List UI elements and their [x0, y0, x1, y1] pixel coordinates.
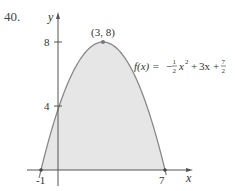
frac-seven-den: 2	[222, 67, 226, 75]
three-x: 3x	[199, 60, 211, 72]
x-intercept-7	[163, 168, 167, 172]
fx-prefix: f(x) =	[134, 60, 159, 73]
minus-sign: −	[166, 60, 172, 72]
chart: y x 8 4 -1 7 (3, 8) f(x) = − 1 2 x 2 + 3…	[0, 0, 235, 191]
frac-seven-num: 7	[222, 58, 226, 66]
y-tick-label-4: 4	[44, 100, 50, 112]
plus-sign-2: +	[213, 60, 219, 72]
plus-sign-1: +	[191, 60, 197, 72]
frac-half-num: 1	[173, 58, 177, 66]
x-tick-label-neg1: -1	[36, 174, 45, 186]
function-label: f(x) = − 1 2 x 2 + 3x + 7 2	[134, 58, 226, 75]
vertex-label: (3, 8)	[91, 26, 115, 39]
exponent-2: 2	[185, 58, 189, 66]
x-intercept-neg1	[39, 168, 43, 172]
x-var: x	[178, 60, 184, 72]
frac-half-den: 2	[173, 67, 177, 75]
y-axis-label: y	[47, 10, 54, 24]
x-tick-label-7: 7	[159, 174, 165, 186]
vertex-point	[101, 40, 105, 44]
x-axis-label: x	[185, 171, 192, 185]
y-axis-arrow	[56, 12, 60, 19]
y-tick-label-8: 8	[44, 36, 50, 48]
